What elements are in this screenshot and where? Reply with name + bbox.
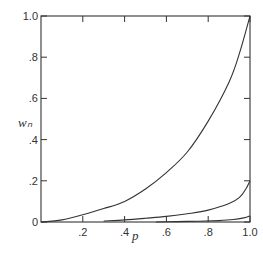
y-tick-label: .2: [29, 175, 38, 187]
series-lines: [41, 16, 250, 222]
y-tick-label: 0: [32, 216, 38, 228]
x-tick-label: .2: [78, 226, 87, 238]
x-tick-label: .4: [120, 226, 129, 238]
x-tick-label: 1.0: [242, 226, 257, 238]
y-tick-label: .4: [29, 134, 38, 146]
plot-frame: [41, 16, 250, 222]
y-tick-label: .6: [29, 92, 38, 104]
x-tick-label: .6: [162, 226, 171, 238]
x-tick-label: .8: [204, 226, 213, 238]
plot-border: [41, 16, 250, 222]
y-axis-label: wₙ: [18, 115, 33, 130]
series-line-3: [156, 216, 250, 222]
y-tick-label: 1.0: [23, 10, 38, 22]
chart: .2.4.6.81.00.2.4.6.81.0 wₙ p: [0, 0, 263, 253]
y-tick-label: .8: [29, 51, 38, 63]
series-line-1: [41, 16, 250, 222]
axis-ticks: .2.4.6.81.00.2.4.6.81.0: [23, 10, 258, 238]
x-axis-label: p: [131, 228, 139, 243]
